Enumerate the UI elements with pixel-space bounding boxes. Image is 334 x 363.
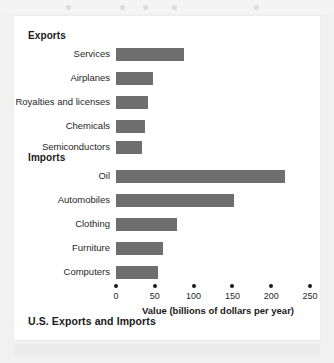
bar-royalties-and-licenses — [116, 96, 148, 109]
bar-furniture — [116, 242, 163, 255]
bar-row: Royalties and licenses — [14, 95, 320, 109]
category-label: Clothing — [14, 217, 110, 231]
x-axis-tick-dot — [308, 284, 312, 288]
bar-semiconductors — [116, 141, 142, 154]
category-label: Oil — [14, 169, 110, 183]
bar-row: Semiconductors — [14, 140, 320, 154]
figure-card: Exports Imports Services Airplanes Royal… — [14, 16, 320, 340]
bar-airplanes — [116, 72, 153, 85]
bar-row: Oil — [14, 169, 320, 183]
bar-clothing — [116, 218, 177, 231]
x-axis-tick-label: 50 — [140, 291, 170, 301]
category-label: Royalties and licenses — [14, 95, 110, 109]
category-label: Computers — [14, 265, 110, 279]
x-axis-tick-label: 250 — [295, 291, 325, 301]
category-label: Semiconductors — [14, 140, 110, 154]
page-band-lower — [14, 344, 320, 355]
bar-oil — [116, 170, 285, 183]
category-label: Airplanes — [14, 71, 110, 85]
bar-services — [116, 48, 184, 61]
x-axis-tick-dot — [114, 284, 118, 288]
bar-automobiles — [116, 194, 234, 207]
bar-row: Services — [14, 47, 320, 61]
section-heading-exports: Exports — [28, 30, 66, 41]
x-axis-tick-label: 0 — [101, 291, 131, 301]
x-axis-tick-dot — [153, 284, 157, 288]
category-label: Automobiles — [14, 193, 110, 207]
page-top-strip — [0, 0, 334, 14]
bar-computers — [116, 266, 158, 279]
category-label: Furniture — [14, 241, 110, 255]
x-axis-tick-dot — [269, 284, 273, 288]
x-axis-tick-label: 200 — [256, 291, 286, 301]
figure-title: U.S. Exports and Imports — [28, 315, 156, 327]
bar-row: Airplanes — [14, 71, 320, 85]
x-axis-tick-label: 100 — [179, 291, 209, 301]
category-label: Services — [14, 47, 110, 61]
x-axis-tick-dot — [192, 284, 196, 288]
bar-row: Automobiles — [14, 193, 320, 207]
x-axis-tick-dot — [230, 284, 234, 288]
bar-row: Furniture — [14, 241, 320, 255]
bar-row: Computers — [14, 265, 320, 279]
category-label: Chemicals — [14, 119, 110, 133]
bar-row: Clothing — [14, 217, 320, 231]
bar-row: Chemicals — [14, 119, 320, 133]
x-axis-tick-label: 150 — [217, 291, 247, 301]
page-background: Exports Imports Services Airplanes Royal… — [0, 0, 334, 363]
bar-chemicals — [116, 120, 145, 133]
